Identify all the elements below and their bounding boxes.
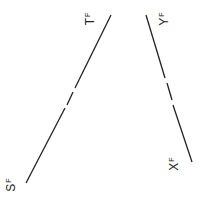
label-t: TF <box>82 13 96 26</box>
line-s-t-segment-1 <box>67 92 73 105</box>
label-x-main: X <box>167 163 181 171</box>
line-s-t-segment-2 <box>26 108 65 183</box>
label-y-sub: F <box>158 12 165 16</box>
line-y-x-segment-1 <box>167 83 172 100</box>
label-t-sub: F <box>84 13 91 17</box>
line-s-t-segment-0 <box>75 15 111 88</box>
label-s: SF <box>3 178 17 191</box>
line-y-x-segment-2 <box>173 105 192 162</box>
label-x-sub: F <box>168 157 175 161</box>
label-y-main: Y <box>157 18 171 26</box>
label-s-main: S <box>4 184 18 192</box>
label-s-sub: F <box>5 178 12 182</box>
label-t-main: T <box>83 18 97 25</box>
diagram-canvas <box>0 0 205 210</box>
label-x: XF <box>166 157 180 170</box>
label-y: YF <box>156 12 170 25</box>
